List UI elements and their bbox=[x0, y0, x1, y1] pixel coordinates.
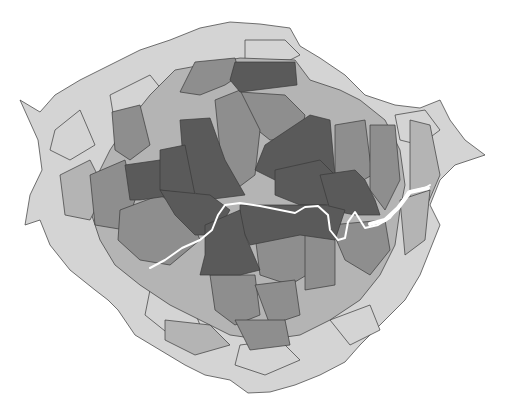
cartogram-map bbox=[0, 0, 507, 405]
